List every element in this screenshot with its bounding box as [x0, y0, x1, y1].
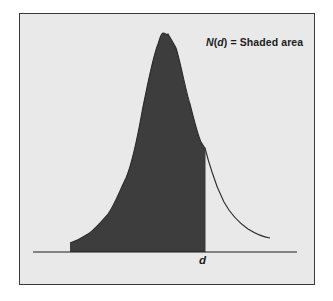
figure-container: N(d) = Shaded area d	[0, 0, 333, 301]
axis-tick-label-d: d	[199, 254, 206, 266]
legend-annotation: N(d) = Shaded area	[206, 36, 303, 48]
figure-frame	[19, 13, 315, 285]
legend-function-symbol: N	[206, 36, 214, 48]
legend-description: Shaded area	[240, 36, 304, 48]
legend-equals: =	[227, 36, 239, 48]
